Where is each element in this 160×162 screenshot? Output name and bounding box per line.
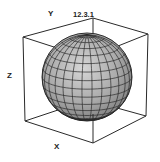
bounding-box-diagram bbox=[0, 0, 160, 162]
figure-number-label: 12.3.1 bbox=[73, 11, 94, 19]
sphere-mesh bbox=[42, 33, 132, 121]
z-axis-label: Z bbox=[7, 72, 12, 80]
y-axis-label: Y bbox=[48, 10, 53, 18]
x-axis-label: X bbox=[54, 143, 59, 151]
figure-canvas: Y 12.3.1 Z X bbox=[0, 0, 160, 162]
